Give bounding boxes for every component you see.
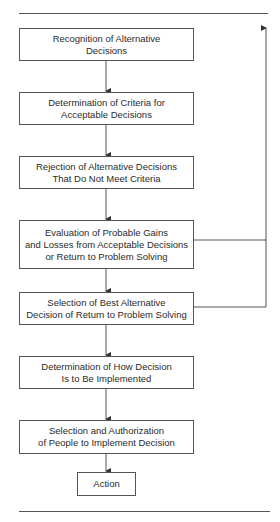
step-label: Determination of Criteria for Acceptable… bbox=[48, 97, 165, 121]
step-criteria: Determination of Criteria for Acceptable… bbox=[19, 92, 194, 125]
step-label: Action bbox=[93, 478, 119, 490]
step-label: Selection of Best Alternative Decision o… bbox=[26, 297, 187, 321]
step-label: Selection and Authorization of People to… bbox=[38, 425, 175, 449]
step-recognition: Recognition of Alternative Decisions bbox=[19, 28, 194, 61]
step-evaluation: Evaluation of Probable Gains and Losses … bbox=[19, 220, 194, 269]
step-label: Evaluation of Probable Gains and Losses … bbox=[25, 227, 188, 263]
step-authorization: Selection and Authorization of People to… bbox=[19, 420, 194, 454]
step-label: Rejection of Alternative Decisions That … bbox=[36, 161, 177, 185]
step-action: Action bbox=[77, 472, 136, 496]
step-label: Recognition of Alternative Decisions bbox=[53, 33, 161, 57]
bottom-rule bbox=[19, 511, 270, 512]
step-implementation: Determination of How Decision Is to Be I… bbox=[19, 356, 194, 389]
step-rejection: Rejection of Alternative Decisions That … bbox=[19, 156, 194, 189]
step-label: Determination of How Decision Is to Be I… bbox=[41, 361, 171, 385]
step-selection: Selection of Best Alternative Decision o… bbox=[19, 292, 194, 325]
